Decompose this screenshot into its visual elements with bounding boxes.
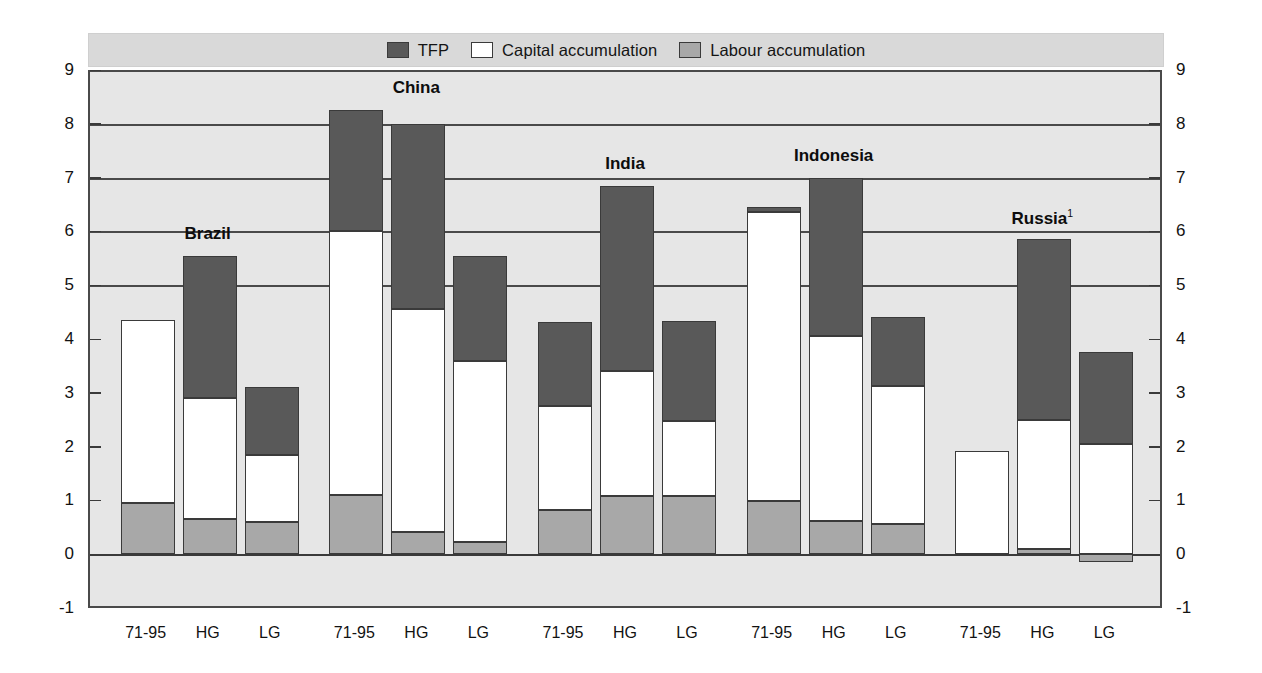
y-axis-label-right: 7 (1176, 169, 1185, 186)
bar-segment-capital (453, 361, 507, 543)
bar-segment-tfp (329, 110, 383, 231)
bar-segment-labour (121, 503, 175, 554)
bar-segment-capital (1079, 444, 1133, 554)
y-axis-label-right: 2 (1176, 438, 1185, 455)
y-axis-label-right: 9 (1176, 61, 1185, 78)
x-axis-label: HG (1030, 624, 1054, 642)
y-tick-left-4 (90, 339, 101, 341)
gridline-7 (90, 178, 1160, 180)
y-axis-label-right: 5 (1176, 276, 1185, 293)
y-tick-left-3 (90, 392, 101, 394)
y-tick-right-1 (1149, 500, 1160, 502)
bar-segment-capital (747, 212, 801, 501)
bar-segment-labour (245, 522, 299, 554)
zero-line (90, 554, 1160, 556)
y-axis-label-left: 5 (0, 276, 74, 293)
y-tick-left-6 (90, 231, 101, 233)
bar-segment-capital (183, 398, 237, 519)
y-axis-label-right: 0 (1176, 545, 1185, 562)
y-tick-left-1 (90, 500, 101, 502)
y-tick-left-9 (90, 70, 101, 72)
y-axis-label-right: -1 (1176, 599, 1191, 616)
x-axis-label: 71-95 (960, 624, 1001, 642)
bar-segment-tfp (809, 178, 863, 337)
group-label-russia: Russia1 (1012, 207, 1074, 229)
y-axis-label-right: 3 (1176, 384, 1185, 401)
group-label-india: India (605, 154, 645, 174)
y-tick-right-6 (1149, 231, 1160, 233)
bar-segment-tfp (391, 124, 445, 310)
y-tick-right-5 (1149, 285, 1160, 287)
y-axis-label-left: 2 (0, 438, 74, 455)
legend-swatch-icon (471, 42, 493, 58)
legend-item-labour-accumulation: Labour accumulation (679, 41, 865, 60)
chart-plot-area (88, 70, 1162, 608)
y-axis-label-left: 7 (0, 169, 74, 186)
y-axis-label-left: 6 (0, 222, 74, 239)
y-axis-label-left: 9 (0, 61, 74, 78)
group-label-text: Russia (1012, 209, 1068, 228)
bar-segment-labour (662, 496, 716, 554)
legend-label: Capital accumulation (502, 41, 657, 60)
x-axis-label: HG (196, 624, 220, 642)
group-label-brazil: Brazil (185, 224, 231, 244)
bar-segment-labour (453, 542, 507, 554)
x-axis-label: LG (885, 624, 906, 642)
y-axis-label-left: 1 (0, 491, 74, 508)
x-axis-label: 71-95 (751, 624, 792, 642)
bar-segment-capital (245, 455, 299, 522)
bar-segment-tfp (1017, 239, 1071, 419)
legend-label: Labour accumulation (710, 41, 865, 60)
legend-swatch-icon (679, 42, 701, 58)
bar-segment-tfp (538, 322, 592, 406)
bar-segment-tfp (453, 256, 507, 361)
bar-segment-capital (809, 336, 863, 521)
y-tick-right-3 (1149, 392, 1160, 394)
x-axis-label: HG (613, 624, 637, 642)
y-tick-left-5 (90, 285, 101, 287)
y-axis-label-right: 1 (1176, 491, 1185, 508)
y-tick-left-0 (90, 554, 101, 556)
bar-segment-labour (600, 496, 654, 554)
group-label-china: China (393, 78, 440, 98)
x-axis-line (90, 606, 1160, 608)
bar-segment-capital (538, 406, 592, 510)
group-label-indonesia: Indonesia (794, 146, 873, 166)
y-axis-label-left: 3 (0, 384, 74, 401)
bar-segment-tfp (600, 186, 654, 372)
bar-segment-labour (329, 495, 383, 554)
y-tick-right-0 (1149, 554, 1160, 556)
y-tick-right-4 (1149, 339, 1160, 341)
x-axis-label: LG (676, 624, 697, 642)
x-axis-label: 71-95 (125, 624, 166, 642)
x-axis-label: HG (822, 624, 846, 642)
bar-segment-capital (391, 309, 445, 531)
bar-segment-capital (662, 421, 716, 496)
bar-segment-labour (538, 510, 592, 554)
x-axis-label: LG (259, 624, 280, 642)
bar-segment-capital (871, 386, 925, 523)
legend-swatch-icon (387, 42, 409, 58)
bar-segment-tfp (662, 321, 716, 421)
gridline-8 (90, 124, 1160, 126)
bar-segment-labour (871, 524, 925, 555)
y-axis-label-left: -1 (0, 599, 74, 616)
bar-segment-capital (600, 371, 654, 496)
y-axis-label-left: 8 (0, 115, 74, 132)
bar-segment-tfp (183, 256, 237, 399)
bar-segment-tfp (245, 387, 299, 454)
x-axis-label: LG (1094, 624, 1115, 642)
bar-segment-tfp (747, 207, 801, 212)
y-axis-label-left: 0 (0, 545, 74, 562)
group-label-text: India (605, 154, 645, 173)
y-tick-left-8 (90, 123, 101, 125)
y-tick-left-7 (90, 177, 101, 179)
y-axis-label-left: 4 (0, 330, 74, 347)
y-tick-right-2 (1149, 446, 1160, 448)
legend-label: TFP (418, 41, 449, 60)
y-axis-label-right: 8 (1176, 115, 1185, 132)
chart-root: TFPCapital accumulationLabour accumulati… (0, 0, 1262, 673)
group-label-text: Brazil (185, 224, 231, 243)
x-axis-label: HG (404, 624, 428, 642)
bar-segment-capital (329, 231, 383, 495)
